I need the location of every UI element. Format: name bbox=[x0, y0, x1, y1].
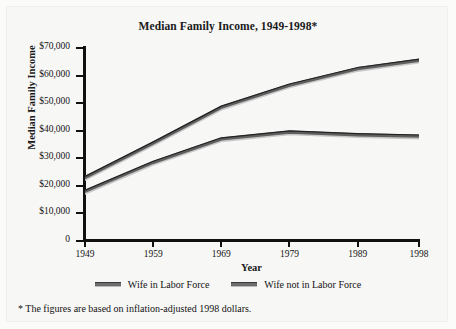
legend-item-label: Wife not in Labor Force bbox=[264, 279, 361, 290]
y-axis-tick bbox=[76, 102, 84, 104]
y-axis-tick bbox=[76, 130, 84, 132]
y-axis-tick bbox=[76, 47, 84, 49]
x-axis-tick-label: 1949 bbox=[55, 249, 115, 259]
x-axis-title: Year bbox=[83, 262, 420, 273]
y-axis-tick bbox=[76, 157, 84, 159]
plot-area bbox=[85, 48, 419, 241]
x-axis-tick-label: 1998 bbox=[389, 249, 449, 259]
legend-swatch-icon bbox=[231, 282, 257, 287]
legend-swatch-icon bbox=[95, 282, 121, 287]
y-axis-tick-label: $50,000 bbox=[14, 96, 70, 106]
y-axis-tick-label: $40,000 bbox=[14, 124, 70, 134]
y-axis-tick-label: $10,000 bbox=[14, 206, 70, 216]
series-line-highlight bbox=[85, 133, 419, 192]
legend-item-label: Wife in Labor Force bbox=[128, 279, 210, 290]
y-axis-tick-label: $60,000 bbox=[14, 69, 70, 79]
series-line-highlight bbox=[85, 62, 419, 179]
page-title: Median Family Income, 1949-1998* bbox=[0, 20, 456, 32]
x-axis-tick-label: 1969 bbox=[191, 249, 251, 259]
x-axis-tick-label: 1959 bbox=[123, 249, 183, 259]
y-axis-tick bbox=[76, 212, 84, 214]
y-axis-tick-label: 0 bbox=[14, 234, 70, 244]
x-axis-tick-label: 1989 bbox=[328, 249, 388, 259]
y-axis-tick bbox=[76, 75, 84, 77]
y-axis-tick-label: $20,000 bbox=[14, 179, 70, 189]
legend-item-wife-not-in-labor-force[interactable]: Wife not in Labor Force bbox=[231, 279, 361, 290]
series-line-outline bbox=[85, 59, 419, 176]
series-line-outline bbox=[85, 131, 419, 190]
series-line-2 bbox=[85, 132, 419, 191]
y-axis-tick-label: $30,000 bbox=[14, 151, 70, 161]
x-axis-tick-label: 1979 bbox=[259, 249, 319, 259]
series-line-1 bbox=[85, 60, 419, 177]
chart-figure: Median Family Income, 1949-1998* $70,000… bbox=[0, 0, 456, 329]
legend-item-wife-in-labor-force[interactable]: Wife in Labor Force bbox=[95, 279, 210, 290]
y-axis-tick-label: $70,000 bbox=[14, 41, 70, 51]
y-axis-tick bbox=[76, 185, 84, 187]
y-axis-tick bbox=[76, 240, 84, 242]
y-axis-title: Median Family Income bbox=[26, 23, 37, 173]
footnote: * The figures are based on inflation-adj… bbox=[18, 303, 251, 314]
legend: Wife in Labor Force Wife not in Labor Fo… bbox=[0, 279, 456, 290]
series-lines bbox=[85, 48, 419, 241]
